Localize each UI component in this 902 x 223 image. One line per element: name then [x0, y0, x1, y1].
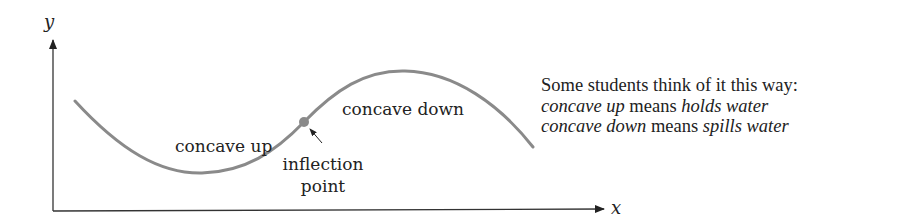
mnemonic-note: Some students think of it this way: conc… — [541, 75, 798, 137]
inflection-leader-arrow — [310, 129, 322, 143]
inflection-point-dot — [299, 117, 309, 127]
inflection-label-line1: inflection — [283, 154, 364, 174]
note-intro: Some students think of it this way: — [541, 75, 798, 96]
concave-up-label: concave up — [175, 136, 272, 156]
x-axis — [53, 209, 604, 211]
note-mid-down: means — [646, 116, 703, 136]
concave-down-label: concave down — [342, 99, 464, 119]
note-meaning-up: holds water — [681, 96, 768, 116]
note-concave-down: concave down means spills water — [541, 116, 798, 137]
note-term-down: concave down — [541, 116, 646, 136]
y-axis-label: y — [43, 11, 55, 32]
note-meaning-down: spills water — [703, 116, 789, 136]
inflection-label-line2: point — [301, 176, 346, 196]
x-axis-label: x — [611, 197, 621, 218]
note-concave-up: concave up means holds water — [541, 96, 798, 117]
note-term-up: concave up — [541, 96, 625, 116]
note-mid-up: means — [625, 96, 682, 116]
